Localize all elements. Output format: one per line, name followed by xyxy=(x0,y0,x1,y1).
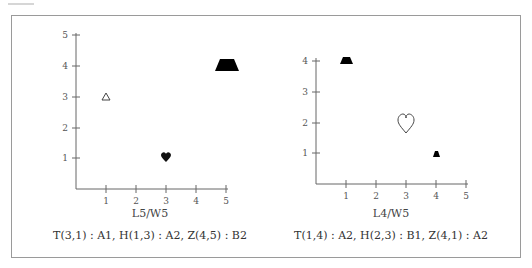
heart-filled-icon xyxy=(161,152,171,162)
triangle-outline-icon xyxy=(102,93,110,100)
left-y-tick-3: 3 xyxy=(62,92,68,102)
trapezoid-filled-small-icon xyxy=(433,151,440,157)
right-y-tick-3: 3 xyxy=(302,87,308,97)
right-x-tick-5: 5 xyxy=(463,191,469,201)
right-y-tick-4: 4 xyxy=(302,56,308,66)
right-plot: 4 3 2 1 1 2 3 4 5 xyxy=(302,56,469,201)
plots-canvas: 5 4 3 2 1 1 2 3 4 5 4 xyxy=(0,0,532,268)
left-y-tick-2: 2 xyxy=(62,123,68,133)
right-y-tick-1: 1 xyxy=(302,148,308,158)
left-y-tick-1: 1 xyxy=(62,153,68,163)
right-x-tick-1: 1 xyxy=(343,191,349,201)
left-plot: 5 4 3 2 1 1 2 3 4 5 xyxy=(62,30,239,206)
trapezoid-filled-large-icon xyxy=(215,59,239,71)
heart-outline-icon xyxy=(398,114,414,133)
right-y-ticks: 4 3 2 1 xyxy=(302,56,320,158)
right-x-tick-3: 3 xyxy=(403,191,409,201)
right-axes xyxy=(316,58,468,184)
right-y-tick-2: 2 xyxy=(302,118,308,128)
left-axes xyxy=(76,33,228,189)
left-x-tick-2: 2 xyxy=(133,196,139,206)
right-x-ticks: 1 2 3 4 5 xyxy=(343,180,469,201)
left-y-tick-4: 4 xyxy=(62,61,68,71)
left-x-tick-3: 3 xyxy=(163,196,169,206)
left-x-ticks: 1 2 3 4 5 xyxy=(103,185,229,206)
left-y-tick-5: 5 xyxy=(62,30,68,40)
left-x-axis-label: L5/W5 xyxy=(50,207,250,220)
left-y-ticks: 5 4 3 2 1 xyxy=(62,30,80,163)
right-x-axis-label: L4/W5 xyxy=(291,207,491,220)
left-x-tick-1: 1 xyxy=(103,196,109,206)
right-x-tick-4: 4 xyxy=(433,191,439,201)
left-caption: T(3,1) : A1, H(1,3) : A2, Z(4,5) : B2 xyxy=(20,229,280,242)
trapezoid-filled-medium-icon xyxy=(340,57,353,64)
right-x-tick-2: 2 xyxy=(373,191,379,201)
left-x-tick-4: 4 xyxy=(193,196,199,206)
left-x-tick-5: 5 xyxy=(223,196,229,206)
right-caption: T(1,4) : A2, H(2,3) : B1, Z(4,1) : A2 xyxy=(261,229,521,242)
